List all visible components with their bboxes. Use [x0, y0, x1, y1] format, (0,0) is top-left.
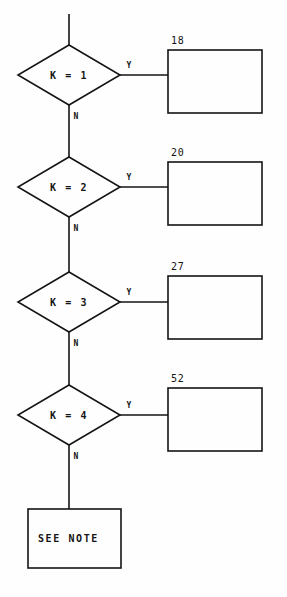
box-number-52: 52 — [171, 374, 185, 384]
action-box-20[interactable] — [168, 162, 262, 225]
no-label-k1: N — [73, 113, 78, 121]
action-box-18[interactable] — [168, 50, 262, 113]
action-box-27[interactable] — [168, 276, 262, 339]
yes-label-k2: Y — [126, 174, 131, 182]
box-number-18: 18 — [171, 36, 185, 46]
yes-label-k1: Y — [126, 62, 131, 70]
see-note-label: SEE NOTE — [38, 534, 99, 544]
action-box-52[interactable] — [168, 388, 262, 451]
yes-label-k3: Y — [126, 289, 131, 297]
no-label-k2: N — [73, 225, 78, 233]
yes-label-k4: Y — [126, 402, 131, 410]
decision-label-k2: K = 2 — [50, 183, 88, 193]
box-number-20: 20 — [171, 148, 185, 158]
no-label-k4: N — [73, 453, 78, 461]
box-number-27: 27 — [171, 262, 185, 272]
decision-label-k3: K = 3 — [50, 298, 88, 308]
decision-label-k1: K = 1 — [50, 71, 88, 81]
decision-label-k4: K = 4 — [50, 411, 88, 421]
flowchart-canvas: K = 1 K = 2 K = 3 K = 4 Y Y Y Y N N N N … — [0, 0, 287, 597]
no-label-k3: N — [73, 340, 78, 348]
flowchart-vector-layer — [0, 0, 287, 597]
